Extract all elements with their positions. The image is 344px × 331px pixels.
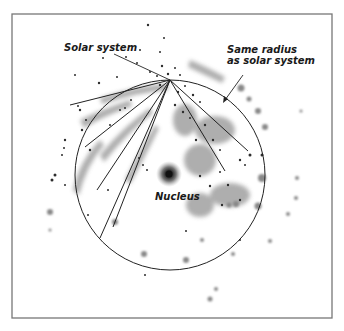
same-radius-label-line2: as solar system <box>227 55 315 66</box>
nucleus <box>156 161 182 187</box>
solar-system-label: Solar system <box>64 42 137 53</box>
same-radius-label-line1: Same radius <box>227 44 297 55</box>
nucleus-label: Nucleus <box>155 191 200 202</box>
galaxy-diagram: Solar system Same radius as solar system… <box>0 0 344 331</box>
